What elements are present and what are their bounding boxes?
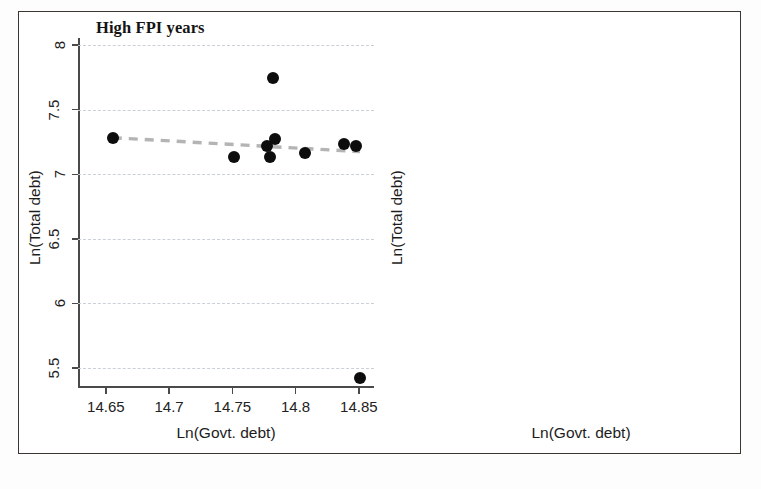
gridline-y	[78, 239, 374, 240]
y-axis-title-left: Ln(Total debt)	[26, 170, 44, 265]
x-tick-label: 14.65	[87, 398, 125, 415]
x-tick-label: 14.75	[214, 398, 252, 415]
y-tick-label: 6	[56, 295, 64, 312]
x-tick	[358, 388, 359, 394]
panel-low-fpi: Low FPI years Ln(Govt. debt) Ln(Total de…	[380, 0, 761, 489]
plot-area-high-fpi	[78, 38, 374, 388]
y-tick-label: 6.5	[43, 230, 64, 247]
y-tick	[72, 238, 78, 239]
x-tick	[105, 388, 106, 394]
x-tick	[295, 388, 296, 394]
y-tick	[72, 367, 78, 368]
y-tick	[72, 174, 78, 175]
data-point	[299, 147, 311, 159]
y-tick-label: 5.5	[43, 359, 64, 376]
x-tick-label: 14.85	[340, 398, 378, 415]
data-point	[354, 372, 366, 384]
y-tick-label: 8	[56, 37, 64, 54]
data-point	[350, 140, 362, 152]
y-tick	[72, 109, 78, 110]
x-tick-label: 14.8	[281, 398, 310, 415]
trendline-high-fpi	[78, 38, 374, 388]
gridline-y	[78, 45, 374, 46]
data-point	[338, 138, 350, 150]
y-tick	[72, 303, 78, 304]
y-tick	[72, 44, 78, 45]
gridline-y	[78, 303, 374, 304]
data-point	[269, 133, 281, 145]
y-tick-label: 7	[56, 166, 64, 183]
y-axis-title-right: Ln(Total debt)	[388, 170, 406, 265]
x-axis-title-left: Ln(Govt. debt)	[176, 424, 275, 442]
data-point	[267, 72, 279, 84]
panel-title-high-fpi: High FPI years	[96, 18, 205, 38]
y-tick-label: 7.5	[43, 101, 64, 118]
panel-high-fpi: High FPI years Ln(Govt. debt) Ln(Total d…	[0, 0, 390, 489]
data-point	[264, 151, 276, 163]
x-tick-label: 14.7	[154, 398, 183, 415]
figure-root: High FPI years Ln(Govt. debt) Ln(Total d…	[0, 0, 761, 489]
gridline-y	[78, 368, 374, 369]
data-point	[107, 132, 119, 144]
x-tick	[168, 388, 169, 394]
gridline-y	[78, 110, 374, 111]
x-tick	[232, 388, 233, 394]
gridline-y	[78, 174, 374, 175]
data-point	[228, 151, 240, 163]
x-axis-title-right: Ln(Govt. debt)	[531, 424, 630, 442]
